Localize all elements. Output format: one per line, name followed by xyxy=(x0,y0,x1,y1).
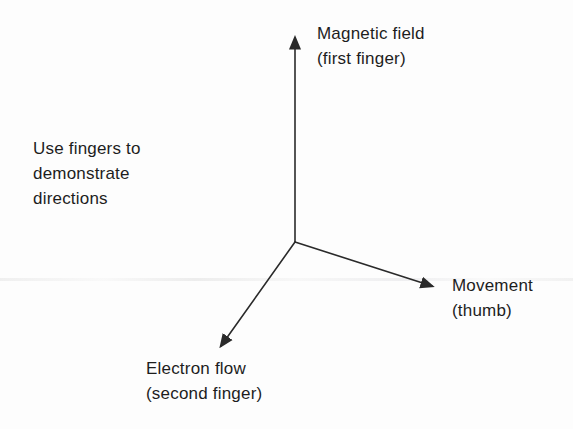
movement-arrow xyxy=(295,242,432,286)
movement-label: Movement (thumb) xyxy=(452,273,533,323)
three-axis-diagram: Magnetic field (first finger) Use finger… xyxy=(0,0,573,429)
instruction-label: Use fingers to demonstrate directions xyxy=(33,136,141,211)
electron-flow-arrow xyxy=(221,242,295,346)
magnetic-field-label: Magnetic field (first finger) xyxy=(317,21,425,71)
axes-svg xyxy=(0,0,573,429)
electron-flow-label: Electron flow (second finger) xyxy=(146,356,262,406)
